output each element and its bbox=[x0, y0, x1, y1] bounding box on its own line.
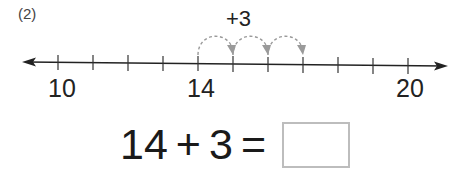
plus-operator: + bbox=[176, 120, 201, 169]
jump-arcs bbox=[198, 36, 303, 55]
tick-label-20: 20 bbox=[396, 74, 424, 103]
axis-line bbox=[26, 62, 444, 66]
equation: 14 + 3 = bbox=[120, 120, 350, 169]
arrowhead-icon bbox=[262, 45, 271, 55]
operand-1: 14 bbox=[120, 120, 168, 169]
operand-2: 3 bbox=[209, 120, 233, 169]
arrowhead-icon bbox=[297, 45, 306, 55]
tick-label-10: 10 bbox=[48, 74, 76, 103]
answer-box[interactable] bbox=[282, 122, 350, 168]
equals-sign: = bbox=[241, 120, 266, 169]
arrowhead-icon bbox=[227, 45, 236, 55]
tick-label-14: 14 bbox=[187, 74, 215, 103]
jump-arrowheads bbox=[227, 45, 306, 55]
